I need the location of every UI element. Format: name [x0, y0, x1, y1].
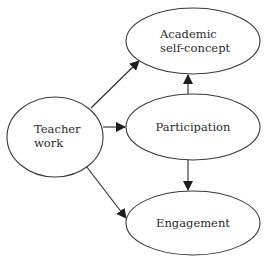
node-academic-self-concept-label-line1: Academic — [159, 27, 217, 41]
node-teacher-work-label-line2: work — [34, 136, 64, 150]
node-engagement-label: Engagement — [156, 216, 230, 230]
node-participation: Participation — [126, 94, 260, 160]
node-academic-self-concept: Academic self-concept — [126, 8, 260, 74]
node-participation-label: Participation — [156, 120, 231, 134]
node-academic-self-concept-label-line2: self-concept — [160, 41, 230, 55]
node-engagement: Engagement — [126, 191, 260, 255]
edge-teacher-to-academic — [91, 61, 139, 108]
path-diagram: Teacher work Academic self-concept Parti… — [0, 0, 271, 260]
node-teacher-work: Teacher work — [7, 97, 103, 177]
node-teacher-work-label-line1: Teacher — [34, 122, 81, 136]
edge-teacher-to-engagement — [86, 166, 126, 218]
